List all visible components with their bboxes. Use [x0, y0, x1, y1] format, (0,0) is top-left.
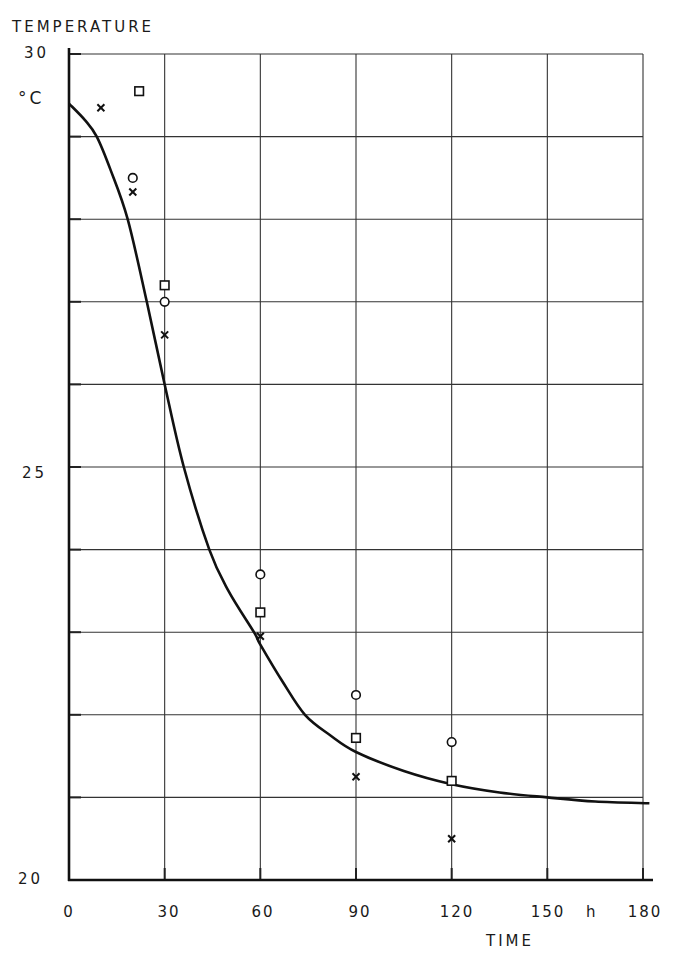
- y-tick-25: 25: [22, 464, 47, 482]
- data-markers: [97, 87, 456, 842]
- y-tick-20: 20: [18, 870, 43, 888]
- y-axis-unit: °C: [18, 88, 44, 108]
- x-tick-90: 90: [348, 903, 371, 921]
- circle-marker: [160, 298, 169, 307]
- x-tick-120: 120: [440, 903, 475, 921]
- circle-marker: [447, 738, 456, 747]
- square-marker: [352, 734, 361, 743]
- axes: [68, 48, 653, 881]
- x-marker: [97, 104, 104, 111]
- x-tick-150: 150: [531, 903, 566, 921]
- x-tick-30: 30: [157, 903, 180, 921]
- x-axis-title: TIME: [486, 932, 534, 950]
- square-marker: [160, 281, 169, 290]
- x-marker: [129, 188, 136, 195]
- circle-marker: [352, 691, 361, 700]
- square-marker: [447, 777, 456, 786]
- x-tick-0: 0: [63, 903, 75, 921]
- circle-marker: [256, 570, 265, 579]
- x-tick-180: 180: [628, 903, 663, 921]
- x-axis-unit: h: [586, 903, 599, 921]
- square-marker: [256, 608, 265, 617]
- temperature-time-plot: [0, 0, 680, 959]
- circle-marker: [128, 174, 137, 183]
- grid-lines: [69, 54, 643, 880]
- y-axis-title: TEMPERATURE: [12, 18, 154, 36]
- square-marker: [135, 87, 144, 96]
- y-tick-30: 30: [24, 44, 49, 62]
- x-tick-60: 60: [251, 903, 274, 921]
